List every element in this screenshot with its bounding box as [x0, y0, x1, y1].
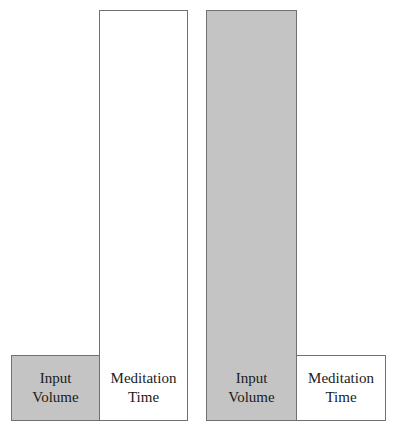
- label-line: Input: [40, 369, 72, 388]
- label-line: Input: [236, 369, 268, 388]
- bar-label: Input Volume: [207, 355, 296, 420]
- bar-label: Meditation Time: [100, 355, 187, 420]
- label-line: Time: [325, 388, 356, 407]
- label-line: Meditation: [308, 369, 374, 388]
- label-line: Volume: [32, 388, 78, 407]
- group2-input-volume-bar: Input Volume: [206, 10, 297, 421]
- label-line: Volume: [228, 388, 274, 407]
- group2-meditation-time-bar: Meditation Time: [296, 355, 386, 421]
- bar-label: Input Volume: [12, 355, 99, 420]
- group1-meditation-time-bar: Meditation Time: [99, 10, 188, 421]
- bar-label: Meditation Time: [297, 355, 385, 420]
- group1-input-volume-bar: Input Volume: [11, 355, 100, 421]
- label-line: Time: [128, 388, 159, 407]
- label-line: Meditation: [111, 369, 177, 388]
